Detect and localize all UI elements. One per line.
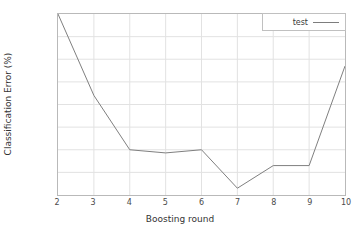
x-axis-tick-label: 4 bbox=[127, 198, 132, 207]
x-axis-tick-label: 3 bbox=[91, 198, 96, 207]
line-swatch-icon bbox=[313, 22, 339, 23]
x-axis-tick-label: 6 bbox=[199, 198, 204, 207]
series-lines bbox=[58, 14, 345, 195]
x-axis-tick-label: 5 bbox=[163, 198, 168, 207]
x-axis-tick-label: 8 bbox=[271, 198, 276, 207]
y-axis-label: Classification Error (%) bbox=[3, 53, 13, 156]
legend: test bbox=[262, 13, 346, 31]
x-axis-tick-label: 9 bbox=[307, 198, 312, 207]
legend-entry-label: test bbox=[293, 18, 308, 27]
x-axis-tick-label: 10 bbox=[341, 198, 351, 207]
x-axis-tick-label: 7 bbox=[235, 198, 240, 207]
x-axis-label: Boosting round bbox=[0, 214, 360, 224]
plot-area bbox=[57, 13, 346, 196]
chart-figure: Classification Error (%) 9.059.19.159.29… bbox=[0, 0, 360, 241]
y-axis-label-container: Classification Error (%) bbox=[14, 0, 15, 241]
x-axis-tick-label: 2 bbox=[54, 198, 59, 207]
